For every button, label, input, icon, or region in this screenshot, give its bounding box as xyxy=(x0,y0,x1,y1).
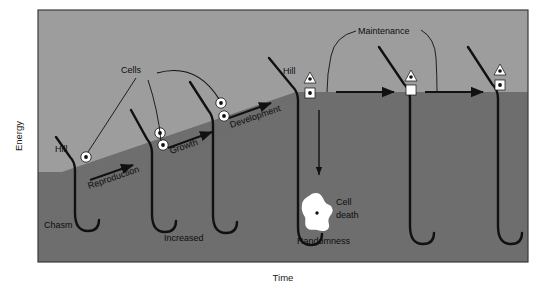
label-cells: Cells xyxy=(121,65,142,75)
label-hill-2: Hill xyxy=(283,66,296,76)
cell-death-nucleus xyxy=(315,211,318,214)
label-increased: Increased xyxy=(164,233,204,243)
label-maintenance: Maintenance xyxy=(358,26,410,36)
cell-marker-square xyxy=(406,85,416,95)
cell-marker-square xyxy=(495,80,505,90)
label-hill-1: Hill xyxy=(55,144,68,154)
diagram-canvas: Hill Chasm Reproduction Increased Growth… xyxy=(0,0,549,291)
energy-landscape-figure: Hill Chasm Reproduction Increased Growth… xyxy=(0,0,549,291)
y-axis-label: Energy xyxy=(13,121,24,151)
label-cell-death-line2: death xyxy=(336,210,359,220)
label-cell-death-line1: Cell xyxy=(336,197,352,207)
cell-marker-square xyxy=(305,88,315,98)
cell-marker xyxy=(158,140,168,150)
cell-marker xyxy=(216,98,226,108)
cell-marker xyxy=(219,111,229,121)
x-axis-label: Time xyxy=(273,272,294,283)
label-chasm-1: Chasm xyxy=(44,220,73,230)
label-randomness: Randomness xyxy=(297,236,351,246)
cell-marker xyxy=(81,152,91,162)
